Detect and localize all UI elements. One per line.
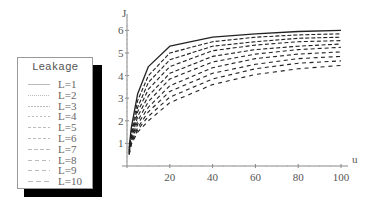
legend-swatch xyxy=(28,106,50,107)
legend-item: L=8 xyxy=(18,155,92,166)
legend-item: L=1 xyxy=(18,79,92,90)
x-tick-label: 20 xyxy=(164,171,176,183)
legend-item: L=5 xyxy=(18,122,92,133)
legend-swatch xyxy=(28,84,50,85)
legend-swatch xyxy=(28,116,50,117)
legend-swatch xyxy=(28,149,50,150)
x-tick-label: 60 xyxy=(250,171,262,183)
chart-curves xyxy=(129,30,341,154)
curve-l-4 xyxy=(129,41,341,152)
legend-title: Leakage xyxy=(18,61,92,73)
legend-swatch xyxy=(28,170,50,171)
legend-item: L=3 xyxy=(18,101,92,112)
legend: Leakage L=1L=2L=3L=4L=5L=6L=7L=8L=9L=10 xyxy=(17,57,93,189)
curve-l-10 xyxy=(129,65,341,154)
legend-swatch xyxy=(28,160,50,161)
curve-l-7 xyxy=(129,52,341,154)
legend-item: L=7 xyxy=(18,144,92,155)
x-tick-label: 80 xyxy=(293,171,305,183)
x-tick-label: 40 xyxy=(207,171,219,183)
legend-swatch xyxy=(28,127,50,128)
legend-item: L=6 xyxy=(18,133,92,144)
y-tick-label: 5 xyxy=(118,47,124,59)
x-tick-label: 100 xyxy=(333,171,350,183)
y-tick-label: 4 xyxy=(118,70,124,82)
curve-l-5 xyxy=(129,44,341,152)
curve-l-2 xyxy=(129,34,341,150)
legend-label: L=10 xyxy=(58,175,82,187)
y-tick-label: 1 xyxy=(118,137,124,149)
legend-item: L=10 xyxy=(18,176,92,187)
y-axis-label: J xyxy=(122,7,127,19)
legend-item: L=2 xyxy=(18,90,92,101)
y-tick-label: 6 xyxy=(118,24,124,36)
legend-swatch xyxy=(28,95,50,96)
x-axis-label: u xyxy=(352,153,358,165)
curve-l-9 xyxy=(129,61,341,155)
legend-item: L=4 xyxy=(18,111,92,122)
y-tick-label: 2 xyxy=(118,115,124,127)
y-tick-label: 3 xyxy=(118,92,124,104)
legend-swatch xyxy=(28,138,50,139)
x-ticks: 20406080100 xyxy=(138,164,350,183)
legend-swatch xyxy=(28,181,50,182)
